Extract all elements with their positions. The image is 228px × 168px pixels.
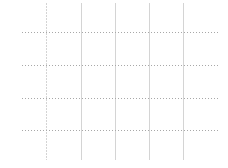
chart-grid [0,0,228,168]
horizontal-gridlines [22,33,218,131]
vertical-gridlines [47,3,184,160]
